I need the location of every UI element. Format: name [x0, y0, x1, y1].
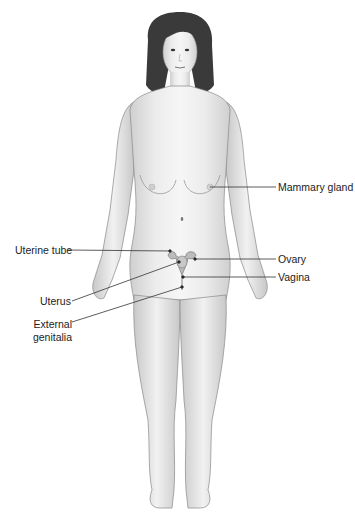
label-vagina: Vagina [278, 271, 310, 283]
label-uterus: Uterus [40, 295, 71, 307]
label-external-genitalia-2: genitalia [32, 331, 72, 343]
label-external-genitalia-1: External [32, 318, 72, 330]
anatomy-diagram: Mammary gland Uterine tube Ovary Vagina … [0, 0, 355, 524]
label-ovary: Ovary [278, 253, 306, 265]
left-arm [93, 102, 134, 299]
right-arm [226, 102, 267, 299]
left-leg [134, 295, 180, 508]
label-uterine-tube: Uterine tube [15, 244, 72, 256]
label-mammary-gland: Mammary gland [278, 181, 353, 193]
right-leg [180, 295, 226, 508]
